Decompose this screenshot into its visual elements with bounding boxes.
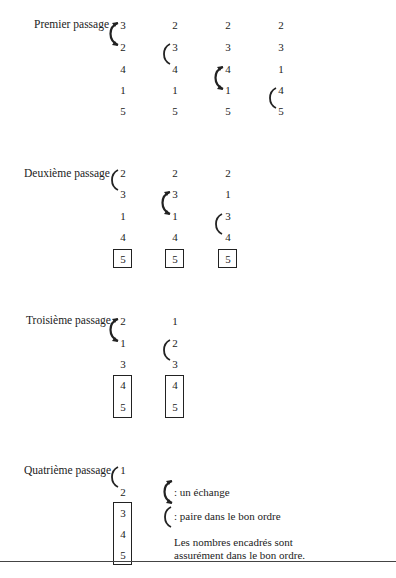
- pass-2-col-2-value: 4: [170, 231, 180, 243]
- swap-arrow-icon: [158, 189, 172, 217]
- pass-1-col-2-value: 5: [170, 105, 180, 117]
- ordered-pair-bracket-icon: [212, 210, 224, 238]
- pass-1-col-3-value: 5: [223, 105, 233, 117]
- legend-ordered-bracket-icon: [161, 503, 173, 531]
- pass-3-col-1-value: 3: [118, 358, 128, 370]
- swap-arrow-icon: [211, 64, 225, 92]
- pass-1-col-2-value: 2: [170, 19, 180, 31]
- legend-boxed-line-1: Les nombres encadrés sont: [174, 536, 293, 548]
- pass-1-col-3-value: 2: [223, 19, 233, 31]
- ordered-pair-bracket-icon: [108, 166, 120, 194]
- bottom-rule: [0, 561, 396, 562]
- legend-ordered-text: : paire dans le bon ordre: [174, 510, 281, 522]
- pass-3-col-1-value: 5: [118, 401, 128, 413]
- pass-1-col-4-value: 3: [276, 41, 286, 53]
- pass-2-col-1-value: 4: [118, 231, 128, 243]
- ordered-pair-bracket-icon: [160, 40, 172, 68]
- ordered-pair-bracket-icon: [266, 84, 278, 112]
- ordered-pair-bracket-icon: [108, 463, 120, 491]
- pass-4-col-1-value: 5: [118, 549, 128, 561]
- swap-arrow-icon: [106, 20, 120, 48]
- pass-2-col-1-value: 1: [118, 210, 128, 222]
- swap-arrow-icon: [106, 316, 120, 344]
- pass-2-col-3-value: 4: [223, 231, 233, 243]
- pass-1-col-4-value: 1: [276, 63, 286, 75]
- pass-2-col-3-value: 3: [223, 210, 233, 222]
- pass-4-col-1-value: 3: [118, 507, 128, 519]
- ordered-pair-bracket-icon: [160, 336, 172, 364]
- pass-1-col-3-value: 3: [223, 41, 233, 53]
- pass-2-col-3-value: 2: [223, 167, 233, 179]
- pass-1-label: Premier passage: [34, 18, 109, 30]
- legend-swap-text: : un échange: [174, 486, 230, 498]
- pass-2-col-1-value: 5: [118, 253, 128, 265]
- pass-2-col-3-value: 1: [223, 188, 233, 200]
- pass-3-label: Troisième passage: [26, 314, 111, 326]
- pass-3-col-2-value: 4: [170, 379, 180, 391]
- pass-1-col-2-value: 1: [170, 84, 180, 96]
- pass-2-label: Deuxième passage: [24, 167, 110, 179]
- pass-1-col-1-value: 1: [118, 84, 128, 96]
- pass-3-col-1-value: 4: [118, 379, 128, 391]
- pass-1-col-1-value: 5: [118, 105, 128, 117]
- pass-2-col-2-value: 5: [170, 253, 180, 265]
- pass-2-col-3-value: 5: [223, 253, 233, 265]
- pass-3-col-2-value: 1: [170, 315, 180, 327]
- legend-swap-arrow-icon: [160, 478, 174, 506]
- pass-4-col-1-value: 4: [118, 528, 128, 540]
- pass-4-label: Quatrième passage: [24, 464, 111, 476]
- pass-1-col-4-value: 2: [276, 19, 286, 31]
- pass-3-col-2-value: 5: [170, 401, 180, 413]
- pass-2-col-2-value: 2: [170, 167, 180, 179]
- legend-boxed-line-2: assurément dans le bon ordre.: [174, 549, 305, 561]
- pass-1-col-1-value: 4: [118, 63, 128, 75]
